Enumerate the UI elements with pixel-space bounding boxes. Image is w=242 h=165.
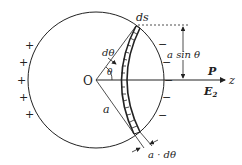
field-label: E2	[203, 85, 217, 99]
svg-text:−: −	[158, 109, 167, 122]
svg-text:+: +	[19, 56, 28, 69]
svg-text:−: −	[162, 56, 171, 69]
svg-text:−: −	[158, 38, 167, 51]
height-label: a sin θ	[167, 49, 200, 60]
svg-text:+: +	[17, 74, 26, 87]
width-label: a · dθ	[148, 149, 176, 160]
sphere-diagram: O ds dθ θ a a sin θ P z E2 a · dθ + + + …	[0, 0, 242, 165]
width-arrow-left	[132, 148, 140, 152]
svg-text:+: +	[25, 108, 34, 121]
svg-text:+: +	[25, 39, 34, 52]
theta-label: θ	[107, 67, 113, 77]
axis-label: z	[228, 74, 235, 87]
ds-label: ds	[136, 11, 149, 24]
width-arrow-right	[150, 140, 158, 144]
radius-label: a	[103, 103, 110, 116]
origin-label: O	[83, 74, 93, 88]
svg-text:−: −	[162, 91, 171, 104]
polarization-label: P	[207, 65, 217, 78]
positive-charges: + + + + +	[17, 39, 34, 121]
svg-text:+: +	[19, 91, 28, 104]
svg-text:−: −	[164, 74, 173, 87]
dtheta-label: dθ	[102, 47, 114, 58]
